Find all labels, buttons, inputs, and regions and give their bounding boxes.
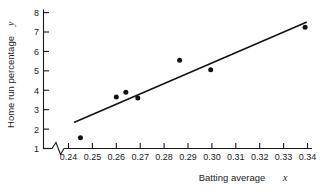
x-tick-label: 0.34 [299,152,317,162]
x-tick-label: 0.29 [179,152,197,162]
y-tick-label: 2 [34,125,39,135]
data-point [177,58,182,63]
x-tick-label: 0.25 [84,152,102,162]
y-tick-label: 8 [34,8,39,18]
y-axis-title-group: Home run percentage y [5,21,16,128]
x-tick-label: 0.33 [275,152,293,162]
y-tick-label: 4 [34,86,39,96]
x-axis-symbol: x [282,172,288,183]
regression-line [74,22,306,122]
data-point [208,67,213,72]
x-tick-label: 0.32 [251,152,269,162]
x-tick-label: 0.30 [203,152,221,162]
x-axis-title-group: Batting average x [199,172,288,183]
y-axis-symbol: y [5,21,16,27]
x-tick-label: 0.31 [227,152,245,162]
data-point [135,96,140,101]
y-tick-label: 5 [34,66,39,76]
x-tick-label: 0.28 [155,152,173,162]
scatter-plot-figure: 8 7 6 5 4 3 2 1 0.24 0.25 0.26 [0,0,330,196]
data-point-group [78,25,308,141]
y-tick-marks [44,13,50,149]
x-tick-marks [69,143,308,149]
x-axis-title: Batting average [199,172,266,183]
x-tick-label: 0.26 [108,152,126,162]
data-point [114,95,119,100]
y-tick-label: 1 [34,144,39,154]
data-point [303,25,308,30]
y-axis-title: Home run percentage [5,36,16,128]
plot-canvas: 8 7 6 5 4 3 2 1 0.24 0.25 0.26 [0,0,330,196]
x-tick-labels: 0.24 0.25 0.26 0.27 0.28 0.29 0.30 0.31 … [60,152,317,162]
x-tick-label: 0.27 [131,152,149,162]
data-point [78,135,83,140]
y-tick-label: 6 [34,47,39,57]
y-tick-label: 3 [34,105,39,115]
y-tick-labels: 8 7 6 5 4 3 2 1 [34,8,39,154]
x-tick-label: 0.24 [60,152,78,162]
y-tick-label: 7 [34,27,39,37]
data-point [123,90,128,95]
